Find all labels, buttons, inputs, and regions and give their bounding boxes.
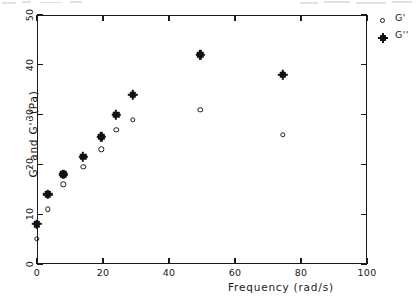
scan-artifact (356, 2, 386, 4)
y-tick-mark-right (361, 14, 367, 15)
x-tick-label: 60 (229, 267, 242, 278)
legend-label: G' (395, 12, 406, 23)
scan-artifact (392, 1, 412, 3)
y-tick-mark-right (361, 214, 367, 215)
y-tick-label: 0 (24, 255, 35, 273)
y-tick-mark-right (361, 263, 367, 264)
legend-item: G' (378, 12, 418, 29)
data-point-Gprimeprime (45, 191, 51, 197)
scatter-chart-figure: 020406080100 01020304050 Frequency (rad/… (0, 0, 418, 303)
data-point-Gprimeprime (280, 72, 286, 78)
x-tick-mark-top (36, 15, 37, 21)
x-tick-mark (234, 258, 235, 264)
data-point-Gprimeprime (34, 221, 40, 227)
x-tick-mark-top (300, 15, 301, 21)
y-tick-mark-right (361, 64, 367, 65)
legend-label: G'' (395, 29, 409, 40)
y-tick-mark (37, 263, 43, 264)
scan-artifact (22, 1, 31, 3)
x-tick-label: 20 (97, 267, 110, 278)
data-point-Gprimeprime (80, 154, 86, 160)
y-axis-title: G' and G'' (Pa) (27, 49, 39, 219)
x-tick-mark-top (366, 15, 367, 21)
scan-artifact (300, 2, 318, 4)
x-tick-mark (102, 258, 103, 264)
data-point-Gprimeprime (98, 134, 104, 140)
scan-artifact (324, 1, 350, 3)
x-tick-label: 80 (295, 267, 308, 278)
y-tick-mark-right (361, 114, 367, 115)
legend-open-circle-icon (380, 18, 385, 23)
scan-artifact (40, 2, 62, 3)
data-point-Gprimeprime (113, 111, 119, 117)
legend-item: G'' (378, 29, 418, 46)
x-tick-mark-top (168, 15, 169, 21)
data-point-Gprimeprime (129, 91, 135, 97)
scan-artifact (70, 1, 82, 3)
y-tick-mark-right (361, 164, 367, 165)
x-tick-mark-top (234, 15, 235, 21)
x-axis-title: Frequency (rad/s) (228, 281, 334, 293)
x-tick-mark (300, 258, 301, 264)
scan-artifact (2, 2, 16, 4)
data-point-Gprimeprime (60, 171, 66, 177)
x-tick-label: 40 (163, 267, 176, 278)
y-tick-label: 50 (24, 6, 35, 24)
data-point-Gprimeprime (197, 52, 203, 58)
chart-legend: G'G'' (378, 12, 418, 46)
x-tick-label: 0 (34, 267, 40, 278)
x-tick-label: 100 (357, 267, 376, 278)
x-tick-mark-top (102, 15, 103, 21)
x-tick-mark (168, 258, 169, 264)
y-tick-mark (37, 14, 43, 15)
legend-star-icon (380, 35, 386, 41)
